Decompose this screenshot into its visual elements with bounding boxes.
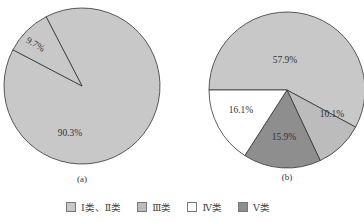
caption-a: (a) (77, 174, 87, 184)
legend-item-class-4: Ⅳ类 (187, 200, 222, 214)
pie-chart-a: 90.3%9.7% (4, 8, 160, 164)
slice-label: 90.3% (58, 128, 83, 138)
caption-b: (b) (282, 172, 293, 182)
slice-label: 16.1% (229, 105, 254, 115)
legend-label: Ⅴ类 (253, 200, 270, 214)
slice-label: 10.1% (320, 109, 345, 119)
pie-chart-b: 57.9%10.1%16.1%15.9% (209, 12, 364, 168)
legend-swatch (238, 202, 248, 212)
legend-swatch (137, 202, 147, 212)
legend-label: Ⅳ类 (202, 200, 222, 214)
slice-label: 15.9% (272, 132, 297, 142)
legend-item-class-5: Ⅴ类 (238, 200, 270, 214)
legend-label: Ⅲ类 (152, 200, 171, 214)
pie-charts: 90.3%9.7% 57.9%10.1%16.1%15.9% (a) (b) (0, 0, 364, 222)
slice-label: 57.9% (273, 55, 298, 65)
legend-swatch (66, 202, 76, 212)
legend-item-class-1-2: Ⅰ类、Ⅱ类 (66, 200, 121, 214)
legend-swatch (187, 202, 197, 212)
legend: Ⅰ类、Ⅱ类 Ⅲ类 Ⅳ类 Ⅴ类 (66, 200, 286, 214)
legend-item-class-3: Ⅲ类 (137, 200, 171, 214)
legend-label: Ⅰ类、Ⅱ类 (81, 200, 121, 214)
